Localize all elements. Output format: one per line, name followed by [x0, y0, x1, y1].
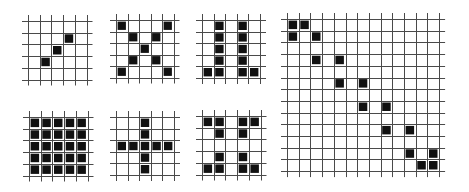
- filled-cell: [215, 164, 224, 173]
- filled-cell: [66, 130, 75, 139]
- filled-cell: [429, 149, 438, 158]
- filled-cell: [359, 103, 368, 112]
- filled-cell: [66, 165, 75, 174]
- filled-cell: [406, 149, 415, 158]
- filled-cell: [215, 56, 223, 64]
- filled-cell: [77, 119, 86, 128]
- filled-cell: [238, 45, 246, 53]
- filled-cell: [382, 103, 391, 112]
- filled-cell: [141, 130, 149, 138]
- filled-cell: [215, 45, 223, 53]
- filled-cell: [417, 161, 426, 170]
- filled-cell: [215, 118, 224, 127]
- filled-cell: [335, 79, 344, 88]
- grid-lines: [116, 117, 174, 175]
- filled-cell: [312, 32, 321, 41]
- filled-cell: [77, 130, 86, 139]
- filled-cell: [31, 130, 39, 139]
- filled-cell: [66, 119, 75, 128]
- filled-cell: [118, 68, 126, 76]
- filled-cell: [152, 142, 160, 150]
- grid-panel-small-x: [116, 20, 174, 78]
- filled-cell: [53, 46, 62, 55]
- filled-cell: [66, 142, 75, 151]
- grid-panel-small-diagonal: [28, 21, 87, 80]
- filled-cell: [204, 68, 212, 76]
- filled-cell: [250, 164, 259, 173]
- filled-cell: [66, 154, 75, 163]
- grid-lines: [28, 21, 87, 80]
- filled-cell: [204, 164, 213, 173]
- filled-cell: [238, 33, 246, 41]
- filled-cell: [238, 22, 246, 30]
- filled-cell: [77, 142, 86, 151]
- filled-cell: [141, 142, 149, 150]
- filled-cell: [42, 130, 51, 139]
- filled-cell: [300, 21, 309, 30]
- grid-lines: [116, 20, 174, 78]
- filled-cell: [118, 22, 126, 30]
- filled-cell: [31, 119, 39, 128]
- filled-cell: [429, 161, 438, 170]
- filled-cell: [215, 68, 223, 76]
- filled-cell: [42, 142, 51, 151]
- filled-cell: [164, 68, 172, 76]
- filled-cell: [406, 126, 415, 134]
- grid-panel-small-plus: [116, 117, 174, 175]
- filled-cell: [152, 33, 160, 41]
- filled-cell: [238, 68, 246, 76]
- filled-cell: [54, 130, 63, 139]
- filled-cell: [204, 118, 213, 127]
- grid-panel-large-staircase: [287, 19, 439, 171]
- grid-panel-small-two-columns: [202, 20, 260, 78]
- filled-cell: [239, 153, 248, 162]
- filled-cell: [54, 142, 63, 151]
- filled-cell: [335, 56, 344, 64]
- filled-cell: [129, 33, 137, 41]
- filled-cell: [31, 165, 39, 174]
- filled-cell: [65, 34, 74, 43]
- filled-cell: [164, 142, 172, 150]
- filled-cell: [77, 165, 86, 174]
- filled-cell: [239, 164, 248, 173]
- filled-cell: [152, 56, 160, 64]
- filled-cell: [215, 129, 224, 138]
- filled-cell: [359, 79, 368, 88]
- filled-cell: [250, 118, 259, 127]
- filled-cell: [129, 142, 137, 150]
- filled-cell: [312, 56, 321, 64]
- filled-cell: [42, 119, 51, 128]
- grid-lines: [202, 20, 260, 78]
- filled-cell: [238, 56, 246, 64]
- filled-cell: [141, 119, 149, 127]
- grid-panel-small-corners: [202, 116, 261, 175]
- filled-cell: [42, 154, 51, 163]
- filled-cell: [41, 58, 50, 66]
- filled-cell: [54, 154, 63, 163]
- grid-panel-small-full: [29, 117, 88, 176]
- filled-cell: [382, 126, 391, 134]
- filled-cell: [215, 33, 223, 41]
- filled-cell: [141, 45, 149, 53]
- filled-cell: [31, 142, 39, 151]
- filled-cell: [289, 21, 298, 30]
- filled-cell: [54, 119, 63, 128]
- filled-cell: [141, 153, 149, 161]
- filled-cell: [77, 154, 86, 163]
- grid-lines: [287, 19, 439, 171]
- filled-cell: [31, 154, 39, 163]
- filled-cell: [141, 165, 149, 173]
- filled-cell: [239, 118, 248, 127]
- filled-cell: [215, 22, 223, 30]
- filled-cell: [42, 165, 51, 174]
- grid-lines: [202, 116, 261, 175]
- filled-cell: [118, 142, 126, 150]
- filled-cell: [250, 68, 258, 76]
- grid-lines: [29, 117, 88, 176]
- filled-cell: [239, 129, 248, 138]
- filled-cell: [164, 22, 172, 30]
- filled-cell: [215, 153, 224, 162]
- filled-cell: [289, 32, 298, 41]
- filled-cell: [54, 165, 63, 174]
- filled-cell: [129, 56, 137, 64]
